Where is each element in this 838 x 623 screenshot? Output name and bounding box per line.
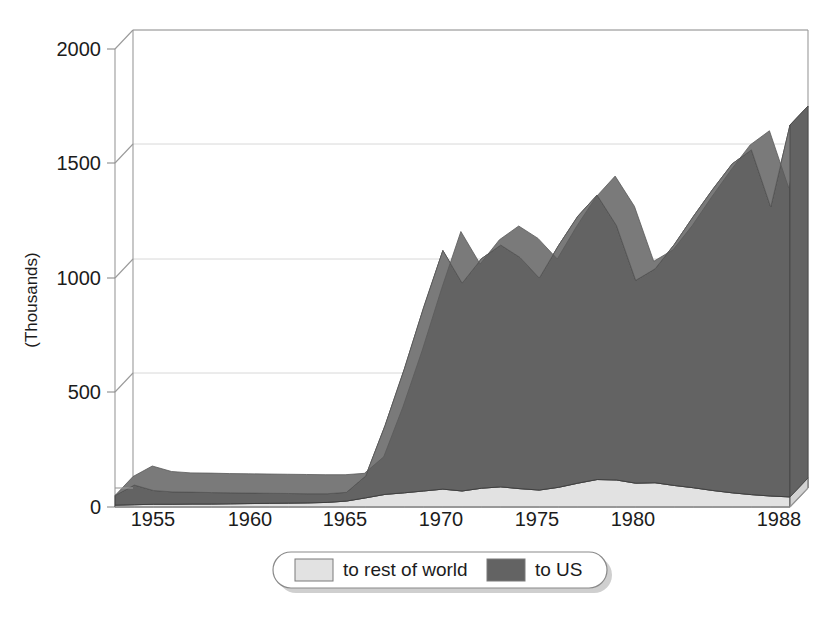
x-tick-label-1975: 1975 xyxy=(515,508,560,530)
legend-label-to-us: to US xyxy=(535,559,583,580)
chart-root: 2000 1500 1000 500 0 (Thousands) 1955 19… xyxy=(0,0,838,623)
x-tick-label-1965: 1965 xyxy=(323,508,368,530)
plot-depth-connectors xyxy=(115,30,133,507)
y-tick-labels: 2000 1500 1000 500 0 xyxy=(57,38,102,518)
x-tick-labels: 1955 1960 1965 1970 1975 1980 1988 xyxy=(131,508,802,530)
legend-label-rest-of-world: to rest of world xyxy=(343,559,468,580)
light-swatch xyxy=(295,559,333,581)
y-tick-label-2000: 2000 xyxy=(57,38,102,60)
x-tick-label-1988: 1988 xyxy=(757,508,802,530)
chart-legend[interactable]: to rest of world to US xyxy=(273,552,612,593)
area-chart-svg: 2000 1500 1000 500 0 (Thousands) 1955 19… xyxy=(0,0,838,623)
legend-item-to-us[interactable]: to US xyxy=(487,559,583,581)
x-tick-label-1980: 1980 xyxy=(611,508,656,530)
y-axis-title: (Thousands) xyxy=(22,252,41,347)
y-tick-label-1000: 1000 xyxy=(57,267,102,289)
x-tick-label-1955: 1955 xyxy=(131,508,176,530)
y-tick-label-1500: 1500 xyxy=(57,152,102,174)
dark-swatch xyxy=(487,559,525,581)
x-tick-label-1970: 1970 xyxy=(419,508,464,530)
y-tick-label-500: 500 xyxy=(68,381,101,403)
legend-item-rest-of-world[interactable]: to rest of world xyxy=(295,559,468,581)
x-tick-label-1960: 1960 xyxy=(228,508,273,530)
y-tick-label-0: 0 xyxy=(90,496,101,518)
series-end-cap-1 xyxy=(790,106,808,497)
y-tickmarks xyxy=(107,49,115,507)
